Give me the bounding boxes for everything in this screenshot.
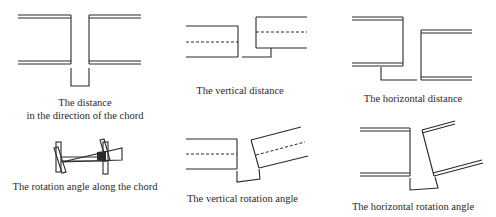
panel-rotation-along-chord: The rotation angle along the chord bbox=[0, 120, 170, 217]
caption-chord-distance: The distance bbox=[0, 96, 170, 109]
caption-line: The rotation angle along the chord bbox=[0, 180, 170, 193]
caption-vertical-rotation: The vertical rotation angle bbox=[170, 192, 315, 205]
caption-horizontal-distance: The horizontal distance bbox=[330, 92, 496, 105]
panel-horizontal-distance: The horizontal distance bbox=[330, 0, 496, 110]
panel-chord-distance: The distance bbox=[0, 0, 170, 110]
caption-line: The distance bbox=[0, 96, 170, 109]
panel-vertical-distance: The vertical distance bbox=[170, 0, 330, 110]
panel-vertical-rotation: The vertical rotation angle bbox=[170, 120, 330, 217]
caption-line: The horizontal distance bbox=[330, 92, 496, 105]
chord-distance-diagram bbox=[0, 0, 170, 110]
caption-line: The vertical distance bbox=[170, 84, 310, 97]
caption-rotation-along-chord: The rotation angle along the chord bbox=[0, 180, 170, 193]
caption-horizontal-rotation: The horizontal rotation angle bbox=[330, 200, 496, 213]
caption-line: The horizontal rotation angle bbox=[330, 200, 496, 213]
caption-line: The vertical rotation angle bbox=[170, 192, 315, 205]
panel-horizontal-rotation: The horizontal rotation angle bbox=[330, 120, 496, 217]
caption-vertical-distance: The vertical distance bbox=[170, 84, 310, 97]
rotation-along-chord-diagram bbox=[0, 120, 170, 217]
